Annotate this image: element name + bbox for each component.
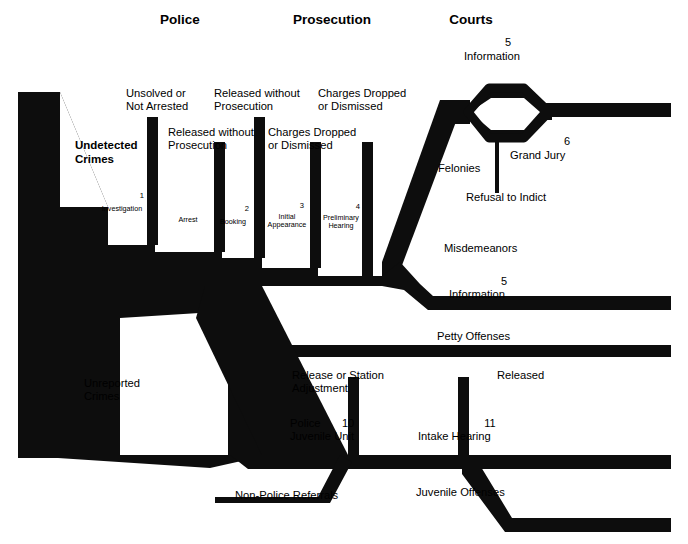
step-label-initial-appearance: Initial Appearance bbox=[262, 213, 312, 230]
exit-label-released-without-prosecution-lower: Released without Prosecution bbox=[168, 126, 254, 152]
exit-bar-unsolved bbox=[147, 117, 158, 245]
exit-label-charges-dropped-lower: Charges Dropped or Dismissed bbox=[268, 126, 356, 152]
inflow-label-unreported-crimes: Unreported Crimes bbox=[84, 377, 140, 403]
step-label-police-juvenile-unit: Police Juvenile Unit bbox=[290, 417, 354, 443]
exit-label-charges-dropped-upper: Charges Dropped or Dismissed bbox=[318, 87, 406, 113]
misdemeanor-branch bbox=[382, 262, 671, 310]
juvenile-output-rail bbox=[469, 455, 671, 469]
step-number-4: 4 bbox=[322, 203, 360, 212]
step-number-11: 11 bbox=[478, 417, 502, 430]
step-number-1: 1 bbox=[108, 192, 144, 201]
route-label-misdemeanors: Misdemeanors bbox=[444, 242, 517, 255]
exit-label-release-or-station-adjustment: Release or Station Adjustment bbox=[292, 369, 384, 395]
step-label-investigation: Investigation bbox=[96, 205, 148, 213]
route-label-felonies: Felonies bbox=[438, 162, 480, 175]
exit-bar-dropped-1 bbox=[310, 142, 321, 268]
court-number-6: 6 bbox=[552, 135, 582, 148]
step-label-arrest: Arrest bbox=[167, 216, 209, 224]
court-number-5-upper: 5 bbox=[492, 36, 524, 49]
hexagon-right-connector bbox=[540, 104, 552, 120]
flow-graphic bbox=[0, 0, 688, 544]
column-header-courts: Courts bbox=[416, 12, 526, 28]
column-header-police: Police bbox=[120, 12, 240, 28]
court-number-5-lower: 5 bbox=[489, 275, 519, 288]
main-trunk-lower-band bbox=[18, 245, 108, 300]
criminal-justice-flow-diagram: Police Prosecution Courts Undetected Cri… bbox=[0, 0, 688, 544]
exit-label-unsolved-not-arrested: Unsolved or Not Arrested bbox=[126, 87, 188, 113]
exit-label-released-juvenile: Released bbox=[497, 369, 544, 382]
route-label-juvenile-offenses: Juvenile Offenses bbox=[416, 486, 505, 499]
route-label-petty-offenses: Petty Offenses bbox=[437, 330, 510, 343]
felony-output-rail bbox=[545, 103, 671, 117]
step-number-3: 3 bbox=[270, 202, 304, 211]
process-baseline-slab bbox=[108, 245, 382, 286]
step-label-preliminary-hearing: Preliminary Hearing bbox=[317, 214, 365, 231]
exit-bar-dropped-2 bbox=[362, 142, 373, 276]
inflow-label-undetected-crimes: Undetected Crimes bbox=[75, 139, 138, 166]
exit-label-refusal-to-indict: Refusal to Indict bbox=[466, 191, 546, 204]
exit-bar-released-1 bbox=[214, 142, 225, 252]
step-number-2: 2 bbox=[213, 205, 249, 214]
main-trunk-police bbox=[18, 207, 108, 245]
exit-label-released-without-prosecution-upper: Released without Prosecution bbox=[214, 87, 300, 113]
exit-bar-released-juvenile bbox=[458, 377, 469, 457]
step-label-intake-hearing: Intake Hearing bbox=[418, 430, 491, 443]
refusal-to-indict-stub bbox=[495, 138, 499, 193]
court-label-information-lower: Information bbox=[449, 288, 505, 301]
court-label-information-upper: Information bbox=[464, 50, 520, 63]
route-label-non-police-referrals: Non-Police Referrals bbox=[235, 489, 338, 502]
court-label-grand-jury: Grand Jury bbox=[510, 149, 565, 162]
exit-bar-released-2 bbox=[254, 117, 265, 258]
column-header-prosecution: Prosecution bbox=[262, 12, 402, 28]
step-label-booking: Booking bbox=[212, 218, 254, 226]
